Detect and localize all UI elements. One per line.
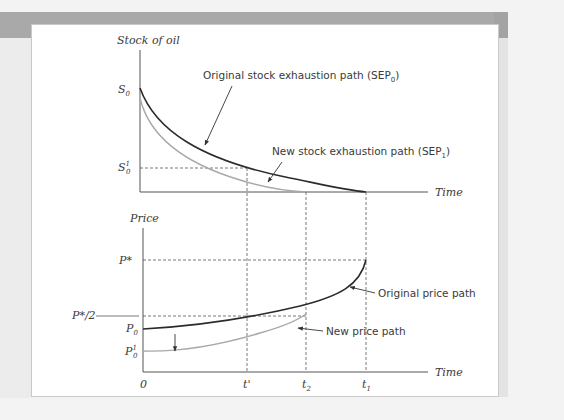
new-price-path [143, 314, 306, 351]
tick-t-prime: t' [243, 378, 250, 391]
tick-P-star: P* [118, 254, 132, 267]
sep0-arrow [205, 86, 232, 145]
tick-t2: t2 [302, 378, 311, 393]
oil-price-diagram: Stock of oil Time S0 S10 Original stock … [0, 0, 564, 420]
tick-S0: S0 [118, 83, 131, 98]
lower-x-axis-label: Time [435, 366, 463, 379]
original-price-label: Original price path [378, 287, 476, 299]
sep1-label: New stock exhaustion path (SEP1) [272, 145, 450, 160]
original-stock-path [140, 88, 366, 192]
sep1-arrow [268, 162, 282, 182]
tick-P-star-half: P*/2 [71, 309, 96, 322]
new-price-label: New price path [326, 325, 406, 337]
original-price-path [143, 260, 366, 329]
tick-S0-prime: S10 [118, 160, 131, 176]
tick-P0-prime: P10 [124, 344, 138, 360]
new-price-arrow [298, 328, 323, 331]
tick-t1: t1 [362, 378, 371, 393]
tick-origin: 0 [140, 378, 147, 391]
tick-P0: P0 [125, 322, 138, 337]
original-price-arrow [350, 287, 375, 293]
sep0-label: Original stock exhaustion path (SEP0) [203, 69, 399, 84]
lower-y-axis-label: Price [129, 212, 159, 225]
upper-x-axis-label: Time [435, 186, 463, 199]
upper-y-axis-label: Stock of oil [117, 34, 180, 47]
